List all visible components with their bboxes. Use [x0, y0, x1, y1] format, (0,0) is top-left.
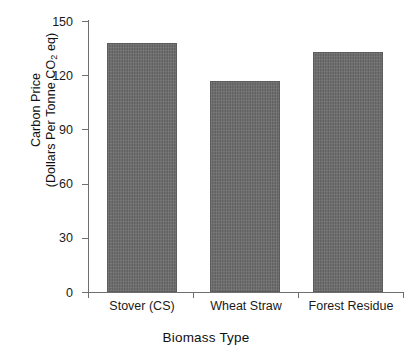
x-axis-line: [88, 292, 403, 293]
y-tick-label: 30: [59, 231, 73, 245]
bar-forest-residue: [313, 52, 383, 292]
y-tick-mark: 30: [82, 238, 88, 239]
bar-stover-cs: [107, 43, 177, 292]
x-tick-label-wheat-straw: Wheat Straw: [210, 299, 282, 313]
y-tick-label: 0: [66, 286, 73, 300]
y-axis-title: Carbon Price (Dollars Per Tonne CO2 eq): [22, 0, 66, 240]
bar-chart-figure: Carbon Price (Dollars Per Tonne CO2 eq) …: [0, 0, 412, 357]
x-tick-label-stover-cs: Stover (CS): [109, 299, 174, 313]
x-tick-label-forest-residue: Forest Residue: [309, 299, 394, 313]
y-axis-title-line-2-suffix: eq): [44, 33, 58, 55]
y-tick-label: 60: [59, 177, 73, 191]
x-tick-mark-2: [298, 292, 299, 298]
x-tick-mark-1: [193, 292, 194, 298]
y-tick-label: 120: [52, 69, 73, 83]
y-tick-mark: 60: [82, 184, 88, 185]
x-tick-mark-0: [88, 292, 89, 298]
y-tick-mark: 150: [82, 21, 88, 22]
plot-area: 150 120 90 60 30 0: [88, 21, 403, 292]
y-tick-mark: 90: [82, 129, 88, 130]
x-tick-mark-3: [403, 292, 404, 298]
y-tick-label: 90: [59, 123, 73, 137]
y-tick-label: 150: [52, 15, 73, 29]
y-axis-title-line-2: (Dollars Per Tonne CO2 eq): [44, 33, 60, 188]
co2-subscript: 2: [49, 55, 59, 60]
y-axis-title-line-1: Carbon Price: [29, 73, 44, 147]
bar-wheat-straw: [210, 81, 280, 292]
y-tick-mark: 120: [82, 75, 88, 76]
x-axis-title: Biomass Type: [0, 330, 412, 345]
